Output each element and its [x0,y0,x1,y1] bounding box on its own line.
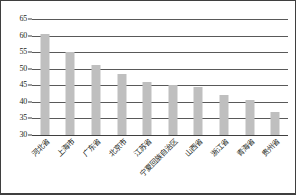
bar[interactable] [91,65,100,135]
bar[interactable] [219,95,228,135]
bar[interactable] [168,85,177,135]
x-axis-labels: 河北省上海市广东省北京市江苏省宁夏回族自治区山西省浙江省青海省贵州省 [32,136,288,194]
y-tick-label-30: 30 [19,131,32,139]
bar-series [32,19,288,135]
x-label-slot: 浙江省 [211,136,237,194]
x-tick-label: 北京市 [107,137,128,158]
bar[interactable] [194,87,203,135]
bar-slot [83,19,109,135]
bar[interactable] [143,82,152,135]
bar-slot [160,19,186,135]
y-tick-label-40: 40 [19,98,32,106]
x-tick-label: 河北省 [30,137,51,158]
bar-slot [237,19,263,135]
x-tick-label: 贵州省 [260,137,281,158]
y-tick-label-60: 60 [19,32,32,40]
bar-slot [109,19,135,135]
x-label-slot: 山西省 [186,136,212,194]
x-label-slot: 广东省 [83,136,109,194]
x-tick-label: 上海市 [56,137,77,158]
x-tick-label: 广东省 [81,137,102,158]
bar-slot [32,19,58,135]
chart-figure: 3035404550556065 河北省上海市广东省北京市江苏省宁夏回族自治区山… [0,0,296,195]
x-label-slot: 青海省 [237,136,263,194]
y-tick-label-50: 50 [19,65,32,73]
bar[interactable] [271,112,280,135]
bar-slot [211,19,237,135]
bar-slot [186,19,212,135]
bar-slot [58,19,84,135]
y-tick-label-55: 55 [19,48,32,56]
figure-bottom-rule [1,193,295,194]
y-tick-label-45: 45 [19,81,32,89]
x-tick-label: 山西省 [184,137,205,158]
plot-area: 3035404550556065 [32,19,288,135]
bar-slot [134,19,160,135]
x-label-slot: 北京市 [109,136,135,194]
y-tick-label-65: 65 [19,15,32,23]
y-tick-label-35: 35 [19,114,32,122]
bar-slot [262,19,288,135]
x-label-slot: 河北省 [32,136,58,194]
x-label-slot: 宁夏回族自治区 [160,136,186,194]
bar[interactable] [66,52,75,135]
x-tick-label: 江苏省 [132,137,153,158]
bar[interactable] [40,34,49,135]
x-tick-label: 浙江省 [209,137,230,158]
x-label-slot: 上海市 [58,136,84,194]
bar[interactable] [245,100,254,135]
x-label-slot: 贵州省 [262,136,288,194]
x-tick-label: 青海省 [235,137,256,158]
bar[interactable] [117,74,126,135]
